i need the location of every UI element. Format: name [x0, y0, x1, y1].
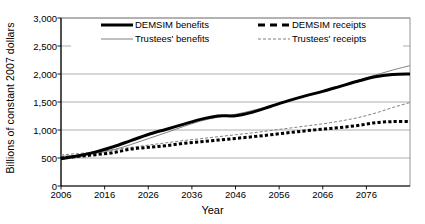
x-tick-label: 2046 — [225, 189, 246, 200]
legend-label: Trustees' benefits — [135, 33, 210, 44]
x-tick-label: 2036 — [181, 189, 202, 200]
x-tick-label: 2076 — [356, 189, 377, 200]
y-axis-title-wrap: Billions of constant 2007 dollars — [0, 0, 20, 196]
x-tick-label: 2056 — [269, 189, 290, 200]
x-tick-label: 2066 — [312, 189, 333, 200]
legend-label: DEMSIM receipts — [292, 19, 366, 30]
series-line — [61, 74, 410, 159]
y-tick-label: 1,500 — [19, 97, 57, 108]
x-axis-tick-labels: 20062016202620362046205620662076 — [0, 189, 425, 203]
data-series-group — [61, 66, 410, 159]
x-tick-label: 2016 — [94, 189, 115, 200]
y-tick-label: 2,000 — [19, 69, 57, 80]
legend-label: Trustees' receipts — [292, 33, 367, 44]
series-line — [61, 66, 410, 157]
x-tick-label: 2006 — [50, 189, 71, 200]
x-axis-title: Year — [0, 204, 425, 216]
x-tick-label: 2026 — [138, 189, 159, 200]
y-tick-label: 500 — [19, 153, 57, 164]
chart-legend: DEMSIM benefitsDEMSIM receiptsTrustees' … — [71, 19, 403, 50]
y-axis-title: Billions of constant 2007 dollars — [4, 23, 16, 174]
chart-figure: Billions of constant 2007 dollars 05001,… — [0, 0, 425, 224]
legend-label: DEMSIM benefits — [135, 19, 209, 30]
series-line — [61, 122, 410, 158]
y-tick-label: 1,000 — [19, 125, 57, 136]
y-tick-label: 3,000 — [19, 13, 57, 24]
y-tick-label: 2,500 — [19, 41, 57, 52]
